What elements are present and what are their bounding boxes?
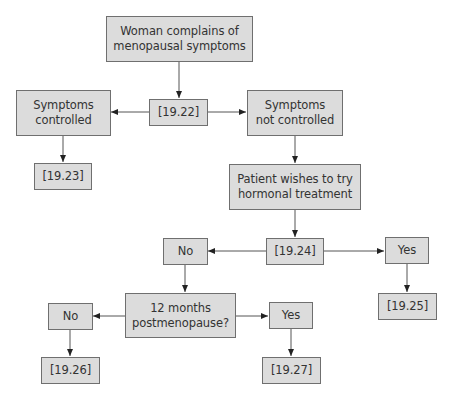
node-ref-19-23: [19.23] — [34, 163, 92, 190]
node-no-postmeno: No — [48, 303, 93, 330]
node-wishes-hormonal-treatment: Patient wishes to try hormonal treatment — [229, 164, 361, 210]
node-yes-postmeno: Yes — [269, 302, 313, 329]
node-12-months-postmenopause: 12 months postmenopause? — [125, 293, 236, 338]
flowchart-canvas: Woman complains of menopausal symptoms [… — [0, 0, 454, 398]
node-symptoms-controlled: Symptoms controlled — [16, 90, 111, 136]
node-ref-19-24: [19.24] — [266, 238, 324, 265]
node-ref-19-27: [19.27] — [262, 357, 321, 384]
node-symptoms-not-controlled: Symptoms not controlled — [247, 90, 343, 136]
node-yes-hormonal: Yes — [385, 237, 429, 264]
node-ref-19-25: [19.25] — [378, 293, 437, 320]
node-no-hormonal: No — [163, 238, 208, 265]
node-ref-19-26: [19.26] — [41, 357, 100, 384]
node-ref-19-22: [19.22] — [149, 99, 208, 126]
node-start: Woman complains of menopausal symptoms — [106, 16, 253, 62]
